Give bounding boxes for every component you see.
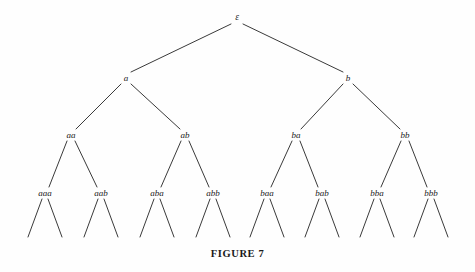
tree-node-b: b: [345, 74, 352, 83]
tree-node-ab: ab: [180, 131, 191, 140]
leaf-edge-aaa-right: [48, 199, 62, 237]
tree-node-aaa: aaa: [37, 189, 53, 198]
tree-edge-root-to-a: [131, 24, 231, 72]
tree-node-ba: ba: [291, 131, 302, 140]
leaf-edge-aaa-left: [28, 199, 42, 237]
tree-edge-aa-to-aab: [75, 141, 97, 187]
leaf-edge-aba-left: [140, 199, 154, 237]
leaf-edge-baa-left: [250, 199, 264, 237]
leaf-edge-abb-right: [216, 199, 230, 237]
leaf-edge-abb-left: [196, 199, 210, 237]
leaf-edge-aab-right: [104, 199, 118, 237]
tree-node-aab: aab: [93, 189, 109, 198]
tree-node-a: a: [123, 74, 130, 83]
tree-node-bab: bab: [314, 189, 330, 198]
leaf-edge-baa-right: [270, 199, 284, 237]
leaf-edge-bba-right: [380, 199, 394, 237]
leaf-edge-bbb-right: [434, 199, 448, 237]
leaf-edge-bba-left: [360, 199, 374, 237]
edge-layer: [49, 24, 427, 187]
tree-node-aa: aa: [66, 131, 77, 140]
tree-edge-ba-to-bab: [300, 141, 318, 187]
leaf-edge-bab-right: [325, 199, 339, 237]
leaf-edge-bab-left: [305, 199, 319, 237]
tree-node-aba: aba: [149, 189, 165, 198]
figure-caption: FIGURE 7: [0, 248, 475, 259]
tree-node-bb: bb: [400, 131, 411, 140]
tree-node-root: ε: [234, 13, 240, 23]
tree-node-bbb: bbb: [423, 189, 439, 198]
tree-edge-aa-to-aaa: [49, 141, 67, 187]
tree-node-abb: abb: [205, 189, 221, 198]
tree-node-baa: baa: [259, 189, 275, 198]
tree-edge-bb-to-bba: [381, 141, 401, 187]
leaf-edge-bbb-left: [414, 199, 428, 237]
tree-edge-a-to-aa: [76, 84, 121, 129]
figure-container: εabaaabbabbaaaaababaabbbaababbbabbb FIGU…: [0, 0, 475, 272]
tree-edge-bb-to-bbb: [409, 141, 427, 187]
tree-edge-ab-to-abb: [189, 141, 209, 187]
leaf-edge-aab-left: [84, 199, 98, 237]
tree-edge-root-to-b: [243, 24, 343, 72]
leaf-edge-aba-right: [160, 199, 174, 237]
tree-edge-b-to-ba: [301, 84, 343, 129]
tree-node-bba: bba: [369, 189, 385, 198]
leaf-edge-layer: [28, 199, 448, 237]
tree-edge-ab-to-aba: [161, 141, 181, 187]
tree-edge-ba-to-baa: [271, 141, 292, 187]
tree-edge-a-to-ab: [131, 84, 180, 129]
tree-edge-b-to-bb: [353, 84, 400, 129]
